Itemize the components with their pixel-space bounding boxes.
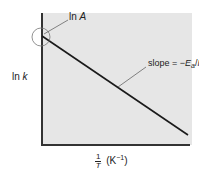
slope-label: slope = −Ea/R	[148, 59, 199, 69]
x-axis-fraction: 1 T	[95, 153, 101, 170]
plot-area	[42, 13, 192, 145]
intercept-label: ln A	[69, 12, 86, 22]
x-axis-units-close: )	[124, 155, 127, 166]
slope-label-divisor: R	[197, 58, 199, 68]
x-axis-fraction-denominator: T	[96, 162, 101, 170]
x-axis-label: 1 T (K−1)	[95, 153, 128, 170]
y-axis-label-main: ln	[12, 71, 23, 82]
y-axis-label: ln k	[12, 72, 28, 82]
arrhenius-plot	[0, 0, 199, 172]
slope-label-prefix: slope = −	[148, 58, 185, 68]
y-axis-label-var: k	[23, 71, 28, 82]
x-axis-units-open: (K	[103, 155, 116, 166]
intercept-label-var: A	[80, 11, 87, 22]
intercept-label-prefix: ln	[69, 11, 80, 22]
